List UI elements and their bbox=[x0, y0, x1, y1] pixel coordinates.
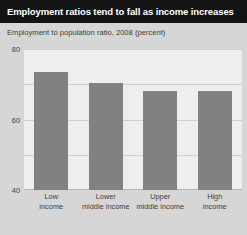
x-axis-label-3: Uppermiddle income bbox=[131, 192, 189, 211]
x-axis-label-line: income bbox=[22, 202, 80, 212]
y-axis-tick-label: 80 bbox=[12, 45, 20, 54]
bar-1 bbox=[34, 72, 68, 190]
y-axis-tick-label: 60 bbox=[12, 115, 20, 124]
x-axis-label-4: Highincome bbox=[186, 192, 244, 211]
x-axis-label-line: Upper bbox=[131, 192, 189, 202]
chart-subtitle: Employment to population ratio, 2008 (pe… bbox=[7, 28, 165, 37]
x-axis-label-2: Lowermiddle income bbox=[77, 192, 135, 211]
x-axis-label-1: Lowincome bbox=[22, 192, 80, 211]
bar-3 bbox=[143, 91, 177, 190]
bar-4 bbox=[198, 91, 232, 190]
x-axis-label-line: middle income bbox=[77, 202, 135, 212]
bar-2 bbox=[89, 83, 123, 191]
x-axis-label-line: High bbox=[186, 192, 244, 202]
x-axis-labels: LowincomeLowermiddle incomeUppermiddle i… bbox=[24, 192, 242, 222]
chart-figure: Employment ratios tend to fall as income… bbox=[0, 0, 247, 235]
x-axis-label-line: Low bbox=[22, 192, 80, 202]
y-axis-tick-label: 40 bbox=[12, 186, 20, 195]
chart-title-bar: Employment ratios tend to fall as income… bbox=[0, 0, 247, 23]
x-axis-label-line: Lower bbox=[77, 192, 135, 202]
x-axis-label-line: middle income bbox=[131, 202, 189, 212]
plot-wrapper: 806040200 bbox=[0, 44, 247, 196]
chart-title: Employment ratios tend to fall as income… bbox=[0, 6, 234, 17]
x-axis-label-line: income bbox=[186, 202, 244, 212]
bar-series bbox=[24, 49, 242, 190]
plot-area: 806040200 bbox=[24, 49, 242, 190]
